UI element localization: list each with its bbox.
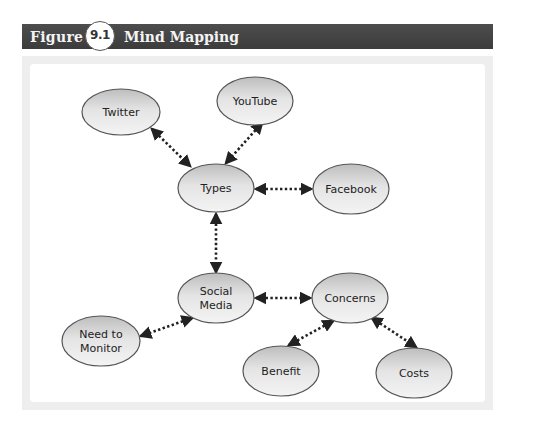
node-twitter: Twitter [82, 89, 160, 135]
node-ellipse [178, 273, 254, 323]
node-label: Concerns [324, 292, 375, 305]
mind-map-diagram: TwitterYouTubeTypesFacebookSocialMediaNe… [0, 0, 533, 432]
node-label: Costs [399, 367, 429, 380]
connector-concerns-costs [372, 318, 416, 347]
node-types: Types [178, 164, 254, 212]
connector-concerns-benefit [289, 321, 333, 345]
node-label: Need to [79, 328, 123, 341]
node-social-media: SocialMedia [178, 273, 254, 323]
connector-youtube-types [226, 123, 262, 163]
node-label: Monitor [80, 342, 122, 355]
node-label: Twitter [102, 106, 140, 119]
connector-twitter-types [152, 129, 190, 166]
node-need-to-monitor: Need toMonitor [62, 316, 140, 366]
node-benefit: Benefit [243, 346, 319, 396]
node-label: Facebook [325, 183, 377, 196]
node-costs: Costs [376, 348, 452, 398]
connector-social-media-need-to-monitor [141, 318, 192, 336]
node-label: Media [199, 299, 232, 312]
node-label: Social [200, 285, 233, 298]
node-ellipse [62, 316, 140, 366]
node-youtube: YouTube [217, 77, 293, 125]
node-label: Benefit [261, 365, 301, 378]
node-facebook: Facebook [313, 164, 389, 214]
node-label: YouTube [232, 95, 278, 108]
node-label: Types [200, 182, 232, 195]
node-concerns: Concerns [312, 273, 388, 323]
nodes-layer: TwitterYouTubeTypesFacebookSocialMediaNe… [62, 77, 452, 398]
